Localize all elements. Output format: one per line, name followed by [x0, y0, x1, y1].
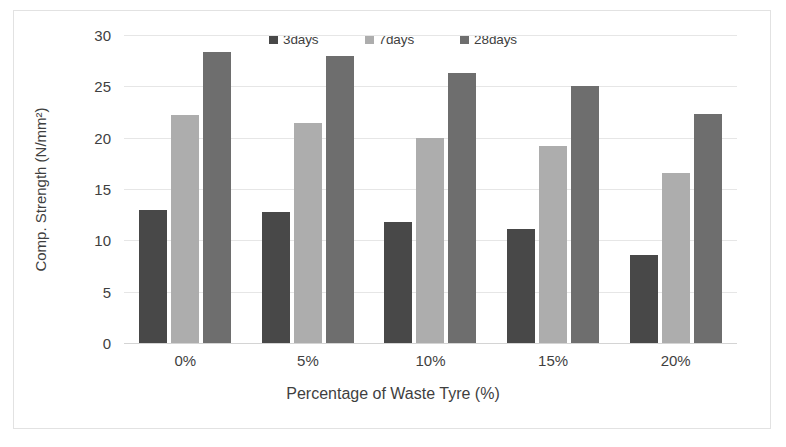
chart-container: 3days 7days 28days Comp. Strength (N/mm²… — [13, 10, 771, 429]
bar-group — [124, 35, 247, 343]
bar — [416, 138, 444, 343]
bar-group — [369, 35, 492, 343]
plot-area: 051015202530 0%5%10%15%20% — [124, 35, 737, 343]
y-axis-tick-label: 30 — [94, 28, 111, 43]
bar — [203, 52, 231, 343]
y-axis-title: Comp. Strength (N/mm²) — [32, 60, 49, 320]
y-axis-tick-label: 5 — [103, 284, 111, 299]
bar-group — [492, 35, 615, 343]
y-axis-tick-label: 25 — [94, 79, 111, 94]
bar — [171, 115, 199, 343]
bar — [262, 212, 290, 343]
bar — [662, 173, 690, 343]
x-axis-tick-label: 10% — [371, 353, 491, 368]
y-axis-tick-label: 15 — [94, 182, 111, 197]
y-axis-tick-label: 0 — [103, 336, 111, 351]
bar — [384, 222, 412, 343]
bar — [694, 114, 722, 343]
bar — [630, 255, 658, 343]
x-axis-tick-label: 15% — [493, 353, 613, 368]
bar — [448, 73, 476, 343]
bar-group — [247, 35, 370, 343]
bar — [139, 210, 167, 343]
y-axis-tick-label: 10 — [94, 233, 111, 248]
bar — [326, 56, 354, 343]
x-axis-tick-label: 5% — [248, 353, 368, 368]
bars-layer — [124, 35, 737, 343]
bar — [539, 146, 567, 343]
bar — [294, 123, 322, 343]
bar — [507, 229, 535, 343]
x-axis-tick-label: 20% — [616, 353, 736, 368]
bar — [571, 86, 599, 343]
x-axis-line — [124, 343, 737, 344]
y-axis-tick-label: 20 — [94, 130, 111, 145]
x-axis-tick-label: 0% — [125, 353, 245, 368]
x-axis-title: Percentage of Waste Tyre (%) — [14, 385, 772, 403]
bar-group — [614, 35, 737, 343]
